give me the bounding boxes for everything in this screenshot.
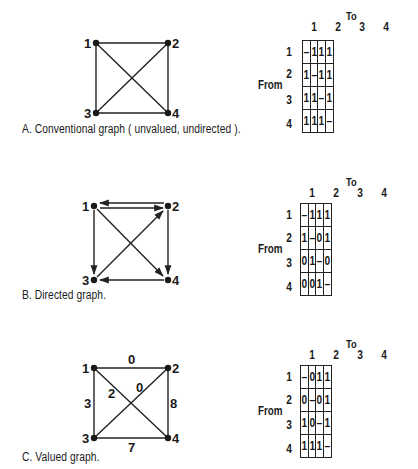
matrix-cell: – <box>308 227 316 250</box>
edge-value-3-4: 7 <box>128 440 135 455</box>
edge-value-2-4: 8 <box>170 396 177 411</box>
node-1 <box>91 203 97 209</box>
matrix-row: 1 – 0 1 <box>301 227 332 250</box>
node-label-4: 4 <box>172 273 180 288</box>
caption-b: B. Directed graph. <box>22 288 106 302</box>
row-head-2: 2 <box>279 231 299 245</box>
matrix-cell: 1 <box>326 41 334 64</box>
col-head-1: 1 <box>304 20 324 34</box>
matrix-cell: 1 <box>303 110 311 133</box>
matrix-cell: 0 <box>308 412 316 435</box>
matrix-row: – 1 1 1 <box>301 204 332 227</box>
from-label: From <box>258 404 283 418</box>
row-head-3: 3 <box>279 418 299 432</box>
matrix-cell: – <box>308 389 316 412</box>
node-4 <box>165 435 171 441</box>
matrix-row: 1 1 – 1 <box>303 87 334 110</box>
row-head-2: 2 <box>279 67 299 81</box>
node-label-1: 1 <box>84 36 91 51</box>
edge-3-2 <box>97 211 163 277</box>
matrix-cell: – <box>318 87 326 110</box>
row-head-2: 2 <box>279 393 299 407</box>
node-label-2: 2 <box>172 199 179 214</box>
col-head-3: 3 <box>350 186 370 200</box>
col-head-3: 3 <box>350 348 370 362</box>
matrix-row: 0 1 – 0 <box>301 250 332 273</box>
row-head-3: 3 <box>279 93 299 107</box>
row-head-4: 4 <box>279 117 299 131</box>
matrix-cell: – <box>324 435 332 458</box>
matrix-row: 0 – 0 1 <box>301 389 332 412</box>
matrix-grid-c: – 0 1 1 0 – 0 1 1 0 – 1 1 1 1 – <box>300 365 332 458</box>
matrix-row: – 1 1 1 <box>303 41 334 64</box>
matrix-cell: 1 <box>316 204 324 227</box>
node-label-3: 3 <box>84 106 91 121</box>
node-3 <box>93 110 99 116</box>
matrix-cell: 0 <box>301 250 309 273</box>
node-label-1: 1 <box>82 199 89 214</box>
col-head-1: 1 <box>302 186 322 200</box>
matrix-cell: 1 <box>301 412 309 435</box>
matrix-cell: 1 <box>308 250 316 273</box>
matrix-cell: 1 <box>326 64 334 87</box>
node-label-2: 2 <box>172 36 179 51</box>
matrix-cell: 0 <box>308 366 316 389</box>
panel-a: 1 2 3 4 A. Conventional graph ( unvalued… <box>0 0 418 150</box>
matrix-cell: 1 <box>326 87 334 110</box>
matrix-cell: 1 <box>316 366 324 389</box>
matrix-row: 1 1 1 – <box>303 110 334 133</box>
col-head-2: 2 <box>326 348 346 362</box>
node-label-4: 4 <box>172 431 180 446</box>
edge-value-2-3: 0 <box>136 380 143 395</box>
matrix-cell: 1 <box>310 41 318 64</box>
node-2 <box>165 40 171 46</box>
matrix-row: 1 1 1 – <box>301 435 332 458</box>
matrix-cell: – <box>301 366 309 389</box>
node-3 <box>91 435 97 441</box>
node-4 <box>165 277 171 283</box>
matrix-cell: 1 <box>303 64 311 87</box>
col-head-2: 2 <box>328 20 348 34</box>
col-head-1: 1 <box>302 348 322 362</box>
matrix-grid-b: – 1 1 1 1 – 0 1 0 1 – 0 0 0 1 – <box>300 203 332 296</box>
matrix-cell: 1 <box>324 412 332 435</box>
matrix-cell: 0 <box>301 273 309 296</box>
to-label: To <box>346 176 357 188</box>
matrix-cell: 0 <box>324 250 332 273</box>
col-head-3: 3 <box>352 20 372 34</box>
matrix-cell: 1 <box>324 366 332 389</box>
matrix-cell: – <box>303 41 311 64</box>
edge-value-1-4: 2 <box>108 386 115 401</box>
matrix-cell: 0 <box>316 227 324 250</box>
matrix-cell: 1 <box>310 87 318 110</box>
col-head-4: 4 <box>376 20 396 34</box>
node-label-3: 3 <box>82 273 89 288</box>
matrix-cell: 0 <box>301 389 309 412</box>
matrix-row: 0 0 1 – <box>301 273 332 296</box>
node-2 <box>165 365 171 371</box>
row-head-3: 3 <box>279 256 299 270</box>
edge-value-1-2: 0 <box>128 352 135 367</box>
edge-1-4 <box>97 209 163 276</box>
matrix-cell: 1 <box>324 389 332 412</box>
node-label-1: 1 <box>82 361 89 376</box>
node-label-2: 2 <box>172 361 179 376</box>
col-head-4: 4 <box>374 348 394 362</box>
row-head-4: 4 <box>279 442 299 456</box>
matrix-cell: 1 <box>310 110 318 133</box>
row-head-4: 4 <box>279 280 299 294</box>
matrix-row: 1 0 – 1 <box>301 412 332 435</box>
matrix-cell: – <box>324 273 332 296</box>
caption-a: A. Conventional graph ( unvalued, undire… <box>22 122 241 136</box>
node-2 <box>165 203 171 209</box>
node-4 <box>165 110 171 116</box>
row-head-1: 1 <box>279 370 299 384</box>
node-3 <box>91 277 97 283</box>
matrix-cell: 1 <box>308 435 316 458</box>
matrix-cell: – <box>316 250 324 273</box>
matrix-cell: 1 <box>318 110 326 133</box>
node-1 <box>93 40 99 46</box>
matrix-cell: 0 <box>316 389 324 412</box>
matrix-cell: 1 <box>318 41 326 64</box>
matrix-row: 1 – 1 1 <box>303 64 334 87</box>
